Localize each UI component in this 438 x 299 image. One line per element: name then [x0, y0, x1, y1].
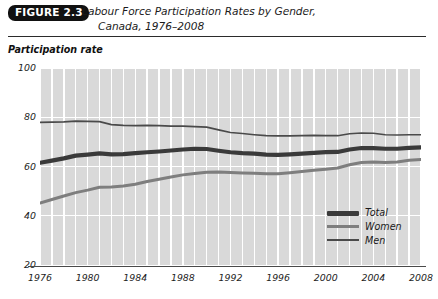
y-tick-label: 20 [6, 259, 36, 270]
legend-label-men: Men [365, 234, 385, 247]
legend-swatch-men [327, 239, 359, 241]
y-tick-label: 60 [6, 161, 36, 172]
legend-item-men: Men [327, 234, 411, 248]
y-tick-label: 100 [6, 62, 36, 73]
x-tick-label: 2000 [306, 272, 346, 283]
legend-item-women: Women [327, 220, 411, 234]
y-tick-label: 40 [6, 210, 36, 221]
x-tick-label: 2004 [353, 272, 393, 283]
legend-item-total: Total [327, 206, 411, 220]
legend-swatch-total [327, 211, 359, 216]
series-line-total [40, 147, 421, 163]
x-tick-label: 1980 [68, 272, 108, 283]
chart-legend: TotalWomenMen [327, 206, 411, 252]
y-tick-label: 80 [6, 111, 36, 122]
x-tick-label: 1992 [211, 272, 251, 283]
legend-label-women: Women [365, 220, 402, 233]
x-axis-line [28, 266, 426, 267]
x-tick-label: 1984 [115, 272, 155, 283]
legend-swatch-women [327, 225, 359, 228]
y-axis-ticks: 10080604020 [2, 0, 36, 299]
legend-label-total: Total [365, 206, 388, 219]
x-tick-label: 2008 [401, 272, 438, 283]
series-line-women [40, 160, 421, 203]
x-tick-label: 1996 [258, 272, 298, 283]
x-axis-ticks: 197619801984198819921996200020042008 [0, 272, 433, 288]
series-line-men [40, 121, 421, 136]
x-tick-label: 1988 [163, 272, 203, 283]
x-tick-label: 1976 [20, 272, 60, 283]
